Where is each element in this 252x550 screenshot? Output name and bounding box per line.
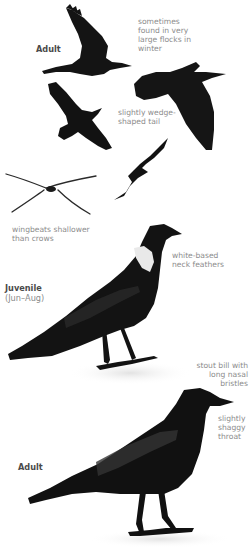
annotation-shaggy-throat: slightly shaggy throat — [218, 414, 246, 441]
adult-flight-glide-illustration — [134, 62, 226, 150]
adult-flight-upper-wing-illustration — [42, 4, 132, 76]
plate-label-adult-flight: Adult — [36, 44, 61, 54]
annotation-wingbeats: wingbeats shallower than crows — [12, 225, 90, 243]
annotation-wedge-tail: slightly wedge- shaped tail — [118, 108, 176, 126]
annotation-flocks: sometimes found in very large flocks in … — [138, 17, 191, 53]
juvenile-season: (Jun–Aug) — [5, 293, 44, 303]
adult-flight-from-below-illustration — [48, 82, 112, 150]
head-on-flight-illustration — [6, 174, 96, 214]
juvenile-label: Juvenile — [5, 283, 42, 293]
plate-label-adult-standing: Adult — [18, 462, 43, 472]
annotation-stout-bill: stout bill with long nasal bristles — [197, 361, 248, 388]
adult-standing-illustration — [28, 388, 234, 548]
adult-flight-distant-illustration — [114, 138, 168, 200]
plate-label-juvenile: Juvenile (Jun–Aug) — [5, 283, 44, 303]
ground-shadow — [68, 361, 192, 385]
annotation-neck-feathers: white-based neck feathers — [172, 251, 224, 269]
juvenile-standing-illustration — [8, 224, 192, 385]
field-guide-plate: Adult sometimes found in very large floc… — [0, 0, 252, 550]
